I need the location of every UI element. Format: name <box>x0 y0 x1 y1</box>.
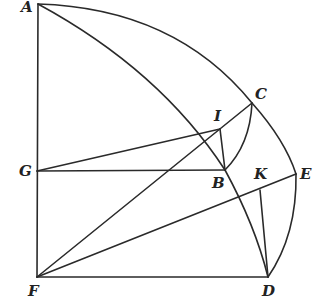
label-G: G <box>19 164 32 179</box>
segment-AF <box>37 4 38 277</box>
label-K: K <box>254 167 267 182</box>
diagram-canvas <box>0 0 320 307</box>
label-C: C <box>255 87 267 102</box>
geometry-diagram: A C I G B K E F D <box>0 0 320 307</box>
label-B: B <box>212 176 225 191</box>
arc-ABD <box>38 4 268 277</box>
segment-GB <box>37 170 225 171</box>
label-I: I <box>214 109 221 124</box>
segment-GI <box>37 129 220 171</box>
segment-FE <box>37 174 296 277</box>
label-F: F <box>28 284 39 299</box>
label-D: D <box>262 284 275 299</box>
arc-ED <box>268 174 296 277</box>
label-E: E <box>300 167 311 182</box>
label-A: A <box>21 0 33 15</box>
